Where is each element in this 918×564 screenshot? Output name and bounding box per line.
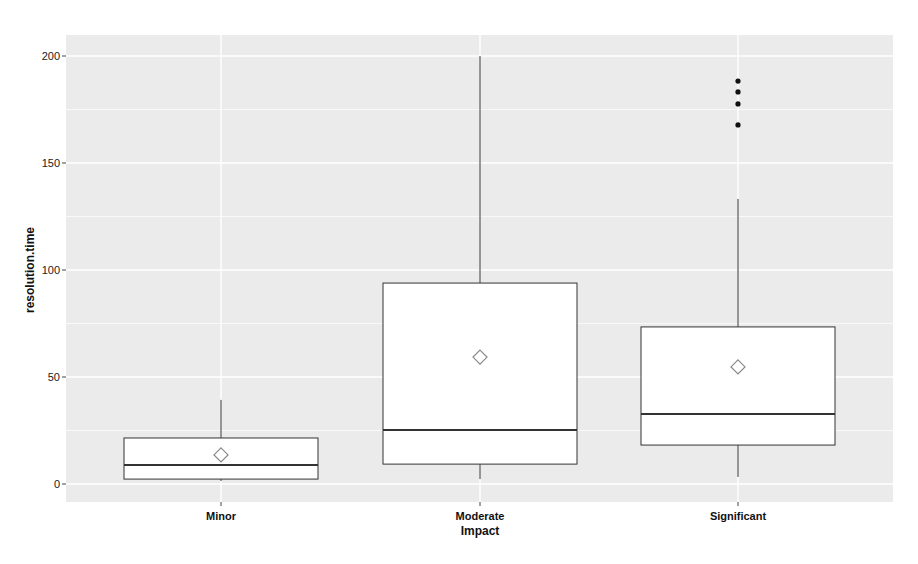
iqr-box [383, 283, 577, 464]
outlier-point [735, 122, 740, 127]
outlier-point [735, 101, 740, 106]
boxplot-chart: 050100150200 MinorModerateSignificant re… [0, 0, 918, 564]
y-tick-label: 50 [48, 371, 60, 383]
iqr-box [641, 327, 835, 445]
iqr-box [124, 438, 318, 479]
y-tick-label: 150 [42, 157, 60, 169]
x-tick-label: Minor [206, 510, 237, 522]
y-tick-label: 0 [54, 478, 60, 490]
y-axis: 050100150200 [42, 50, 66, 490]
y-axis-title: resolution.time [23, 227, 37, 313]
outlier-point [735, 78, 740, 83]
x-axis-title: Impact [461, 524, 500, 538]
y-tick-label: 100 [42, 264, 60, 276]
x-tick-label: Significant [710, 510, 767, 522]
x-axis: MinorModerateSignificant [206, 502, 766, 522]
x-tick-label: Moderate [456, 510, 505, 522]
outlier-point [735, 89, 740, 94]
y-tick-label: 200 [42, 50, 60, 62]
